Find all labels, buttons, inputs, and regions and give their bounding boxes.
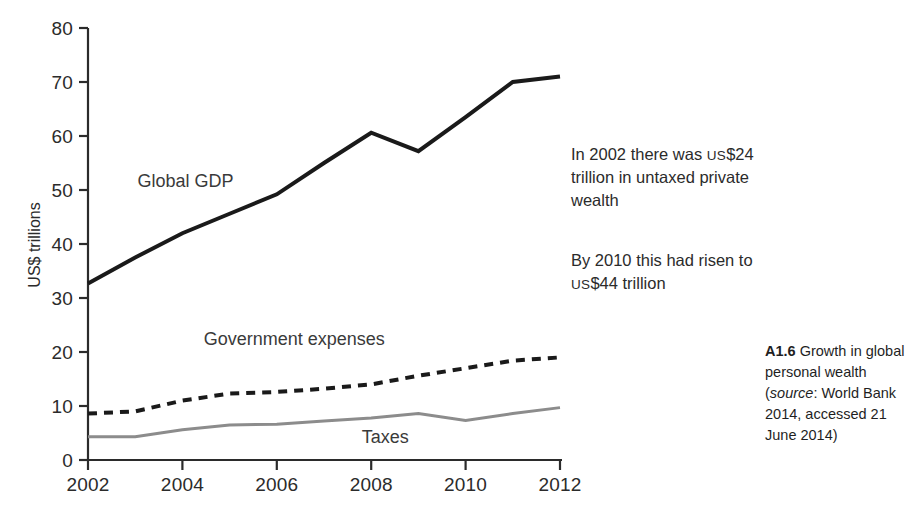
series-line-government-expenses xyxy=(88,357,560,413)
x-tick-label-2006: 2006 xyxy=(255,474,298,495)
x-tick-label-2008: 2008 xyxy=(350,474,393,495)
annotation-text: By 2010 this had risen to xyxy=(571,251,753,269)
caption-figure-number: A1.6 xyxy=(765,343,796,359)
currency-prefix: US xyxy=(571,277,590,292)
y-tick-label-10: 10 xyxy=(51,396,73,417)
x-tick-label-2004: 2004 xyxy=(161,474,204,495)
y-tick-label-30: 30 xyxy=(51,288,73,309)
annotation-2-line: US$44 trillion xyxy=(571,272,786,295)
annotation-1-line: trillion in untaxed private xyxy=(571,166,786,189)
y-tick-label-20: 20 xyxy=(51,342,73,363)
y-tick-label-50: 50 xyxy=(51,180,73,201)
annotation-1-line: wealth xyxy=(571,189,786,212)
series-label-government-expenses: Government expenses xyxy=(204,329,385,349)
series-line-taxes xyxy=(88,408,560,437)
series-label-taxes: Taxes xyxy=(362,427,409,447)
y-axis-title: US$ trillions xyxy=(26,202,43,287)
figure-container: 0102030405060708020022004200620082010201… xyxy=(0,0,912,517)
annotation-untaxed-wealth-2002: In 2002 there was US$24trillion in untax… xyxy=(571,143,786,211)
currency-prefix: US xyxy=(707,148,726,163)
annotation-2-line: By 2010 this had risen to xyxy=(571,249,786,272)
y-tick-label-80: 80 xyxy=(51,18,73,39)
y-tick-label-40: 40 xyxy=(51,234,73,255)
annotation-1-line: In 2002 there was US$24 xyxy=(571,143,786,166)
x-tick-label-2002: 2002 xyxy=(66,474,109,495)
x-tick-label-2010: 2010 xyxy=(444,474,487,495)
figure-caption: A1.6 Growth in global personal wealth (s… xyxy=(765,341,905,446)
annotation-text: $44 trillion xyxy=(590,274,665,292)
series-label-global-gdp: Global GDP xyxy=(138,171,234,191)
annotation-text: $24 xyxy=(726,145,754,163)
y-tick-label-60: 60 xyxy=(51,126,73,147)
annotation-untaxed-wealth-2010: By 2010 this had risen toUS$44 trillion xyxy=(571,249,786,295)
caption-source-word: source xyxy=(770,385,814,401)
annotation-text: wealth xyxy=(571,191,619,209)
x-tick-label-2012: 2012 xyxy=(538,474,581,495)
annotation-text: trillion in untaxed private xyxy=(571,168,749,186)
y-tick-label-0: 0 xyxy=(62,450,73,471)
page-footer-ghost xyxy=(57,503,657,517)
annotation-text: In 2002 there was xyxy=(571,145,707,163)
y-tick-label-70: 70 xyxy=(51,72,73,93)
